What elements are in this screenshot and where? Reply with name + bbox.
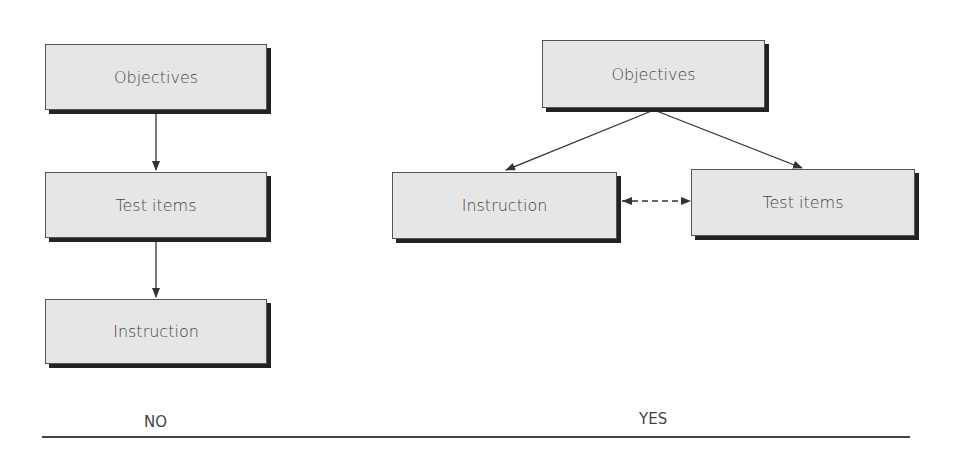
left-instruction-box: Instruction — [45, 299, 267, 364]
right-test-items-box: Test items — [691, 169, 915, 236]
yes-caption: YES — [639, 410, 667, 428]
box-label: Instruction — [113, 322, 199, 341]
box-label: Objectives — [114, 68, 198, 87]
bottom-rule — [42, 436, 910, 438]
right-objectives-box: Objectives — [542, 40, 765, 108]
box-label: Test items — [115, 196, 196, 215]
box-label: Instruction — [462, 196, 548, 215]
left-objectives-box: Objectives — [45, 44, 267, 110]
right-instruction-box: Instruction — [392, 172, 617, 239]
left-test-items-box: Test items — [45, 172, 267, 238]
box-label: Objectives — [611, 65, 695, 84]
box-label: Test items — [762, 193, 843, 212]
no-caption: NO — [144, 413, 167, 431]
